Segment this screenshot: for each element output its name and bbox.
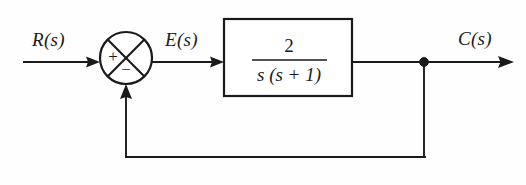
reference-input-arrowhead (86, 57, 100, 68)
reference-input-label: R(s) (31, 29, 65, 51)
error-signal-arrowhead (210, 57, 224, 68)
transfer-function-denominator: s (s + 1) (257, 64, 321, 86)
transfer-function-block[interactable]: 2 s (s + 1) (224, 19, 352, 96)
feedback-arrowhead (120, 84, 132, 99)
error-signal-label: E(s) (164, 29, 198, 51)
block-diagram-figure: + − 2 s (s + 1) R(s) (0, 0, 526, 185)
summing-junction-minus-sign: − (121, 60, 131, 79)
output-wire (352, 56, 514, 68)
error-signal-wire (152, 57, 224, 68)
summing-junction[interactable]: + − (100, 32, 152, 84)
summing-junction-plus-sign: + (108, 47, 118, 66)
reference-input-wire (24, 57, 100, 68)
transfer-function-numerator: 2 (284, 35, 294, 56)
controlled-output-label: C(s) (458, 28, 492, 50)
block-diagram-canvas: + − 2 s (s + 1) R(s) (0, 0, 526, 185)
